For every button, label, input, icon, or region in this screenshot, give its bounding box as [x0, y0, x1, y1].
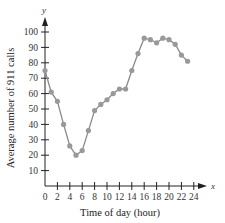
x-axis-title: Time of day (hour)	[80, 207, 160, 219]
y-tick-label: 20	[29, 150, 39, 160]
data-point	[67, 143, 72, 148]
x-axis-variable: x	[210, 181, 215, 191]
x-tick-label: 20	[164, 192, 174, 202]
y-tick-label: 100	[24, 27, 39, 37]
chart: y 102030405060708090100 x 02468101214161…	[0, 0, 225, 223]
x-tick-label: 24	[189, 192, 199, 202]
x-tick-label: 4	[67, 192, 72, 202]
data-point	[179, 53, 184, 58]
data-series	[42, 36, 190, 158]
data-point	[142, 36, 147, 41]
y-tick-label: 30	[29, 135, 39, 145]
data-point	[104, 97, 109, 102]
data-point	[61, 122, 66, 127]
y-tick-label: 10	[29, 166, 39, 176]
y-axis-arrow-icon	[42, 17, 48, 26]
data-point	[42, 68, 47, 73]
y-tick-label: 40	[29, 120, 39, 130]
x-ticks: 024681012141618202224	[43, 182, 199, 202]
data-point	[123, 86, 128, 91]
x-tick-label: 2	[55, 192, 60, 202]
x-tick-label: 12	[115, 192, 125, 202]
y-tick-label: 70	[29, 73, 39, 83]
y-tick-label: 90	[29, 43, 39, 53]
data-point	[86, 128, 91, 133]
data-point	[166, 37, 171, 42]
x-tick-label: 22	[177, 192, 187, 202]
data-point	[148, 37, 153, 42]
y-tick-label: 60	[29, 89, 39, 99]
y-tick-label: 80	[29, 58, 39, 68]
x-tick-label: 10	[102, 192, 112, 202]
data-point	[135, 51, 140, 56]
x-tick-label: 16	[139, 192, 149, 202]
y-tick-label: 50	[29, 104, 39, 114]
data-point	[117, 86, 122, 91]
data-point	[55, 99, 60, 104]
x-tick-label: 0	[43, 192, 48, 202]
x-tick-label: 18	[152, 192, 162, 202]
data-point	[129, 68, 134, 73]
data-point	[73, 153, 78, 158]
x-axis-arrow-icon	[198, 183, 207, 189]
x-tick-label: 6	[80, 192, 85, 202]
x-axis: x 024681012141618202224	[43, 181, 215, 202]
data-point	[173, 42, 178, 47]
data-point	[49, 89, 54, 94]
data-point	[185, 59, 190, 64]
y-axis-variable: y	[41, 5, 46, 15]
data-point	[160, 36, 165, 41]
x-tick-label: 8	[92, 192, 97, 202]
data-point	[111, 91, 116, 96]
series-line	[45, 38, 188, 155]
y-axis-title: Average number of 911 calls	[5, 48, 16, 169]
y-axis: y 102030405060708090100	[24, 5, 49, 186]
data-point	[92, 108, 97, 113]
data-point	[154, 40, 159, 45]
data-point	[80, 148, 85, 153]
data-point	[98, 102, 103, 107]
x-tick-label: 14	[127, 192, 137, 202]
